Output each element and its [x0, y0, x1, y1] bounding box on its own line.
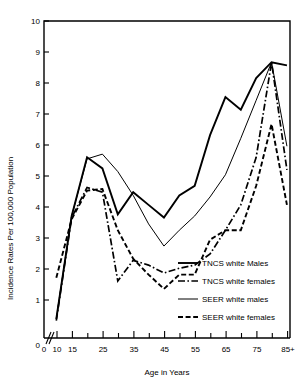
legend-label-seer-white-males: SEER white males [202, 295, 268, 304]
y-tick-label: 4 [36, 203, 41, 212]
y-axis-ticks [44, 21, 49, 300]
legend-label-tncs-white-males: TNCS white Males [202, 259, 268, 268]
y-tick-label: 10 [31, 17, 40, 26]
legend-label-seer-white-females: SEER white females [202, 313, 275, 322]
legend: TNCS white Males TNCS white females SEER… [178, 259, 275, 322]
x-axis-major-ticks [57, 331, 288, 338]
y-axis-title-group: Incidence Rates Per 100,000 Population [6, 157, 15, 300]
x-tick-label: 45 [160, 345, 169, 354]
y-tick-label: 1 [36, 296, 41, 305]
y-tick-label: 2 [36, 265, 41, 274]
y-tick-label: 6 [36, 141, 41, 150]
y-tick-label: 5 [36, 172, 41, 181]
x-axis-title: Age in Years [145, 368, 190, 377]
x-tick-label: 35 [129, 345, 138, 354]
x-tick-label: 75 [252, 345, 261, 354]
x-tick-label: 15 [68, 345, 77, 354]
y-tick-label: 8 [36, 79, 41, 88]
incidence-rate-line-chart: Incidence Rates Per 100,000 Population A… [0, 0, 303, 383]
y-tick-label: 7 [36, 110, 41, 119]
x-tick-label: 65 [222, 345, 231, 354]
legend-label-tncs-white-females: TNCS white females [202, 277, 275, 286]
y-axis-tick-labels: 10 9 8 7 6 5 4 3 2 1 0 [31, 17, 40, 350]
x-axis-title-group: Age in Years [145, 368, 190, 377]
x-tick-label: 85+ [281, 345, 295, 354]
x-axis-tick-labels: 0 10 15 25 35 45 55 65 75 85+ [42, 345, 295, 354]
y-axis-title: Incidence Rates Per 100,000 Population [6, 157, 15, 300]
x-tick-label: 25 [99, 345, 108, 354]
y-tick-label: 3 [36, 234, 41, 243]
y-tick-label: 9 [36, 48, 41, 57]
x-tick-label: 55 [191, 345, 200, 354]
y-tick-label: 0 [36, 341, 41, 350]
x-tick-label: 10 [53, 345, 62, 354]
x-axis-minor-ticks [88, 333, 272, 338]
x-tick-label: 0 [42, 345, 47, 354]
